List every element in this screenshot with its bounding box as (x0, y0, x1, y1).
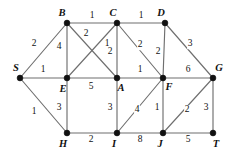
graph-node-a (114, 75, 120, 81)
graph-figure: 211114212223516334123285SBCDEAFGHIJT (0, 0, 233, 158)
graph-edge (117, 78, 163, 133)
graph-edge (163, 23, 165, 78)
graph-node-c (114, 20, 120, 26)
graph-edge (20, 23, 67, 78)
graph-node-e (64, 75, 70, 81)
graph-node-h (64, 130, 70, 136)
graph-node-s (17, 75, 23, 81)
graph-node-g (210, 75, 216, 81)
graph-node-d (162, 20, 168, 26)
graph-canvas (0, 0, 233, 158)
graph-edge (117, 23, 163, 78)
graph-node-t (210, 130, 216, 136)
graph-edge (20, 78, 67, 133)
graph-edge (165, 23, 213, 78)
graph-edge (163, 78, 213, 133)
graph-node-i (114, 130, 120, 136)
graph-node-j (160, 130, 166, 136)
graph-node-b (64, 20, 70, 26)
graph-node-f (160, 75, 166, 81)
